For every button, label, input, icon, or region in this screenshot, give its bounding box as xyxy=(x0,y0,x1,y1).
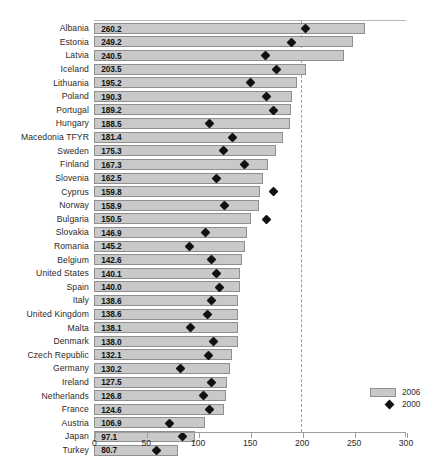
chart-row: Slovenia162.5 xyxy=(0,172,430,186)
chart-row: Italy138.6 xyxy=(0,294,430,308)
bar-chart: Albania260.2Estonia249.2Latvia240.5Icela… xyxy=(0,0,430,464)
category-label: Albania xyxy=(60,23,89,33)
category-label: Japan xyxy=(65,431,89,441)
bar-value-label: 132.1 xyxy=(101,350,121,360)
bar-value-label: 240.5 xyxy=(101,51,121,61)
bar-value-label: 189.2 xyxy=(101,105,121,115)
chart-row: Iceland203.5 xyxy=(0,63,430,77)
chart-row: Malta138.1 xyxy=(0,321,430,335)
chart-row: Slovakia146.9 xyxy=(0,226,430,240)
axis-tick-label: 300 xyxy=(399,438,413,448)
bar-value-label: 150.5 xyxy=(101,214,121,224)
chart-row: Cyprus159.8 xyxy=(0,185,430,199)
category-label: United States xyxy=(36,268,89,278)
chart-row: Lithuania195.2 xyxy=(0,76,430,90)
category-label: Portugal xyxy=(56,105,89,115)
legend-label-2006: 2006 xyxy=(402,387,428,397)
axis-tick-label: 0 xyxy=(92,438,97,448)
bar-value-label: 260.2 xyxy=(101,24,121,34)
bar-value-label: 203.5 xyxy=(101,64,121,74)
category-label: Bulgaria xyxy=(57,214,89,224)
category-label: Norway xyxy=(59,200,89,210)
category-label: Czech Republic xyxy=(27,350,89,360)
chart-row: Latvia240.5 xyxy=(0,49,430,63)
chart-row: Hungary188.5 xyxy=(0,117,430,131)
bar-value-label: 175.3 xyxy=(101,146,121,156)
bar-value-label: 138.6 xyxy=(101,296,121,306)
bar-value-label: 138.6 xyxy=(101,309,121,319)
bar-value-label: 146.9 xyxy=(101,228,121,238)
category-label: Malta xyxy=(67,323,89,333)
bar-value-label: 142.6 xyxy=(101,255,121,265)
bar-value-label: 126.8 xyxy=(101,391,121,401)
bar-2006 xyxy=(94,118,290,129)
bar-value-label: 140.1 xyxy=(101,269,121,279)
category-label: Austria xyxy=(62,418,89,428)
chart-row: Turkey80.7 xyxy=(0,444,430,458)
bar-value-label: 138.1 xyxy=(101,323,121,333)
bar-value-label: 138.0 xyxy=(101,337,121,347)
bar-value-label: 249.2 xyxy=(101,37,121,47)
category-label: Italy xyxy=(73,295,89,305)
chart-row: Belgium142.6 xyxy=(0,253,430,267)
legend-item-2006: 2006 xyxy=(352,386,428,398)
legend-item-2000: 2000 xyxy=(352,398,428,410)
bar-2006 xyxy=(94,77,297,88)
legend-marker-diamond xyxy=(385,399,395,409)
marker-2000 xyxy=(268,187,278,197)
bar-value-label: 106.9 xyxy=(101,418,121,428)
bar-value-label: 145.2 xyxy=(101,241,121,251)
chart-row: Albania260.2 xyxy=(0,22,430,36)
chart-row: Sweden175.3 xyxy=(0,144,430,158)
chart-row: Norway158.9 xyxy=(0,199,430,213)
chart-legend: 2006 2000 xyxy=(352,386,428,410)
bar-value-label: 158.9 xyxy=(101,201,121,211)
category-label: Turkey xyxy=(62,445,89,455)
axis-tick-label: 150 xyxy=(243,438,257,448)
chart-row: Germany130.2 xyxy=(0,362,430,376)
marker-2000 xyxy=(262,214,272,224)
bar-value-label: 195.2 xyxy=(101,78,121,88)
bar-value-label: 159.8 xyxy=(101,187,121,197)
category-label: Belgium xyxy=(57,255,89,265)
bar-2006 xyxy=(94,104,291,115)
bar-value-label: 140.0 xyxy=(101,282,121,292)
bar-value-label: 162.5 xyxy=(101,173,121,183)
chart-row: United States140.1 xyxy=(0,267,430,281)
chart-row: Portugal189.2 xyxy=(0,104,430,118)
category-label: France xyxy=(62,404,89,414)
chart-row: Bulgaria150.5 xyxy=(0,213,430,227)
chart-row: Finland167.3 xyxy=(0,158,430,172)
bar-value-label: 130.2 xyxy=(101,364,121,374)
axis-tick-label: 200 xyxy=(295,438,309,448)
category-label: Slovenia xyxy=(55,173,89,183)
chart-row: Denmark138.0 xyxy=(0,335,430,349)
bar-value-label: 181.4 xyxy=(101,132,121,142)
x-axis xyxy=(94,432,406,437)
category-label: Poland xyxy=(62,91,89,101)
chart-row: Austria106.9 xyxy=(0,417,430,431)
category-label: Hungary xyxy=(56,118,89,128)
chart-row: Macedonia TFYR181.4 xyxy=(0,131,430,145)
category-label: Macedonia TFYR xyxy=(21,132,89,142)
bar-2006 xyxy=(94,50,344,61)
axis-tick-label: 250 xyxy=(347,438,361,448)
category-label: Finland xyxy=(60,159,89,169)
chart-row: Estonia249.2 xyxy=(0,36,430,50)
bar-value-label: 124.6 xyxy=(101,405,121,415)
bar-2006 xyxy=(94,36,353,47)
category-label: United Kingdom xyxy=(26,309,89,319)
category-label: Cyprus xyxy=(61,187,89,197)
chart-row: Poland190.3 xyxy=(0,90,430,104)
category-label: Netherlands xyxy=(42,391,89,401)
axis-tick-label: 100 xyxy=(191,438,205,448)
category-label: Ireland xyxy=(62,377,89,387)
bar-value-label: 190.3 xyxy=(101,92,121,102)
bar-value-label: 188.5 xyxy=(101,119,121,129)
legend-swatch-bar xyxy=(370,388,396,397)
bar-2006 xyxy=(94,23,364,34)
bar-value-label: 167.3 xyxy=(101,160,121,170)
axis-tick-label: 50 xyxy=(141,438,151,448)
bar-value-label: 127.5 xyxy=(101,377,121,387)
category-label: Romania xyxy=(54,241,89,251)
